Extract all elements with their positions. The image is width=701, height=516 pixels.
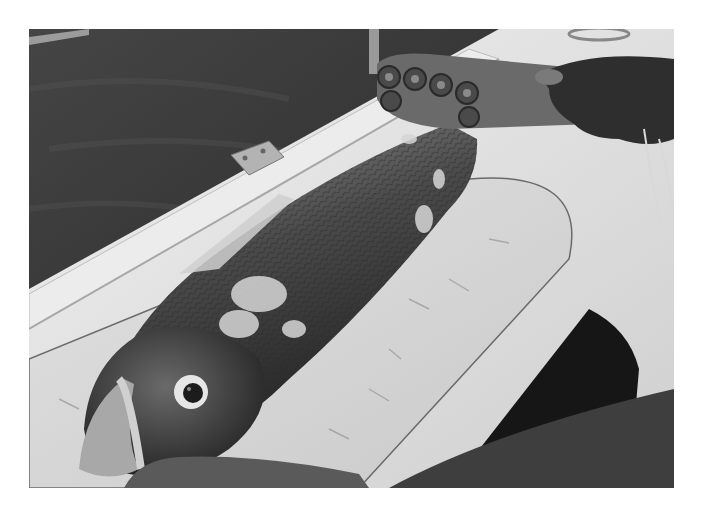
photo-scene (29, 29, 674, 488)
fish-eye (174, 375, 208, 409)
photo (29, 29, 674, 488)
